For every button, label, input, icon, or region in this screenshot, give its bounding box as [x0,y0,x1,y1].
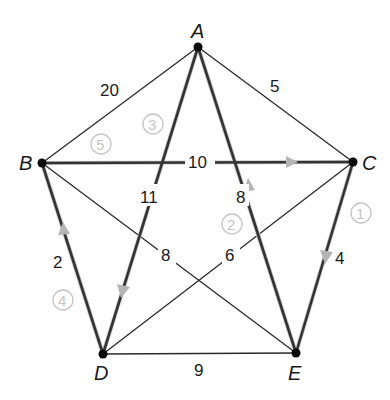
vertex-label-c: C [362,152,377,174]
order-label-2: 2 [227,216,235,233]
order-label-5: 5 [96,136,104,153]
arrow-b-to-c-icon [286,156,298,168]
vertex-d [99,350,108,359]
vertex-label-d: D [94,362,108,384]
edge-d-e [103,353,296,354]
order-label-4: 4 [58,292,66,309]
weight-b-d: 2 [53,253,62,272]
weight-a-c: 5 [270,77,279,96]
vertex-label-e: E [288,362,302,384]
weight-c-e: 4 [335,249,344,268]
order-label-3: 3 [148,116,156,133]
tour-edges [42,47,353,354]
edge-d-b [42,163,103,354]
vertex-b [38,159,47,168]
weight-a-e: 8 [236,188,245,207]
order-label-1: 1 [356,205,364,222]
graph-diagram: 20 5 11 8 10 2 8 6 4 9 1 2 3 4 5 A [0,0,390,400]
tour-order-annotations: 1 2 3 4 5 [53,114,371,310]
weight-a-d: 11 [140,188,158,207]
edge-a-b [42,47,198,163]
vertex-c [349,158,358,167]
edge-a-c [198,47,353,162]
weight-b-c: 10 [188,153,207,172]
weight-a-b: 20 [100,81,119,100]
weight-d-e: 9 [194,361,203,380]
vertex-label-b: B [19,152,32,174]
weight-b-e: 8 [161,246,170,265]
vertex-labels: A B C D E [19,20,377,384]
vertex-e [292,349,301,358]
vertex-a [194,43,203,52]
weight-c-d: 6 [225,246,234,265]
vertex-label-a: A [190,20,204,42]
